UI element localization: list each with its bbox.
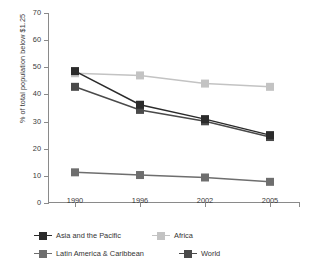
series-line (75, 71, 270, 135)
legend-row: Latin America & CaribbeanWorld (34, 244, 304, 262)
data-point-marker (266, 83, 274, 91)
series-africa (71, 69, 274, 91)
legend-item-africa[interactable]: Africa (152, 231, 193, 240)
series-layer (48, 13, 300, 203)
chart-legend: Asia and the PacificAfricaLatin America … (34, 226, 304, 262)
legend-item-world[interactable]: World (179, 249, 220, 258)
plot-area: 010203040506070 (48, 13, 300, 203)
legend-marker-icon (34, 231, 52, 240)
legend-marker-square (157, 232, 165, 240)
data-point-marker (266, 178, 274, 186)
y-tick-label: 0 (37, 198, 41, 207)
series-latin-america-caribbean (71, 168, 274, 186)
legend-marker-icon (179, 249, 197, 258)
legend-item-asia-and-the-pacific[interactable]: Asia and the Pacific (34, 231, 152, 240)
legend-label: Latin America & Caribbean (56, 249, 144, 258)
series-line (75, 172, 270, 182)
data-point-marker (71, 67, 79, 75)
y-axis-title: % of total population below $1.25 (18, 0, 27, 139)
y-tick-label: 60 (33, 35, 41, 44)
legend-item-latin-america-caribbean[interactable]: Latin America & Caribbean (34, 249, 179, 258)
y-tick-label: 20 (33, 144, 41, 153)
legend-marker-icon (34, 249, 52, 258)
data-point-marker (201, 115, 209, 123)
data-point-marker (71, 83, 79, 91)
x-tick-label: 2005 (250, 196, 290, 205)
poverty-line-chart: % of total population below $1.25 010203… (0, 0, 311, 269)
y-tick-label: 50 (33, 62, 41, 71)
data-point-marker (201, 80, 209, 88)
x-tick-label: 2002 (185, 196, 225, 205)
legend-label: Africa (174, 231, 193, 240)
legend-label: World (201, 249, 220, 258)
data-point-marker (266, 131, 274, 139)
data-point-marker (201, 173, 209, 181)
x-tick-label: 1990 (55, 196, 95, 205)
series-asia-and-the-pacific (71, 67, 274, 139)
y-tick-label: 30 (33, 117, 41, 126)
legend-marker-square (184, 250, 192, 258)
legend-marker-icon (152, 231, 170, 240)
y-tick-label: 10 (33, 171, 41, 180)
data-point-marker (136, 171, 144, 179)
legend-marker-square (39, 250, 47, 258)
y-tick-label: 70 (33, 8, 41, 17)
data-point-marker (136, 101, 144, 109)
legend-label: Asia and the Pacific (56, 231, 121, 240)
legend-marker-square (39, 232, 47, 240)
y-tick-label: 40 (33, 89, 41, 98)
x-tick-label: 1996 (120, 196, 160, 205)
series-line (75, 73, 270, 87)
data-point-marker (71, 168, 79, 176)
data-point-marker (136, 71, 144, 79)
y-tick: 0 (44, 203, 49, 204)
legend-row: Asia and the PacificAfrica (34, 226, 304, 244)
